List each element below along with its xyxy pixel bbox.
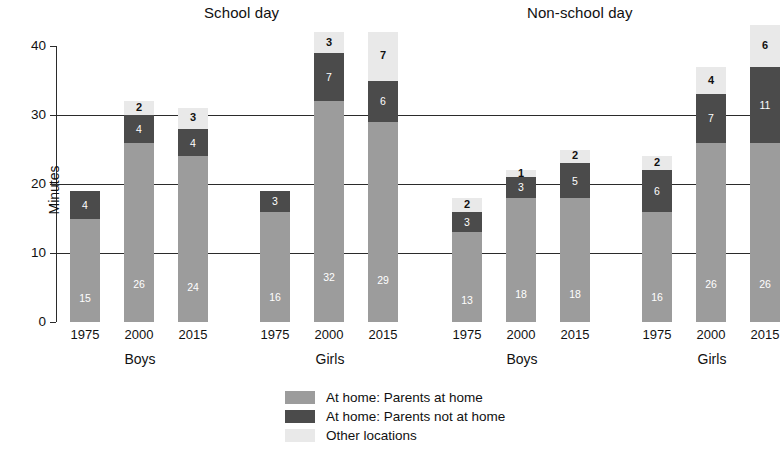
bar-value-label-parents-at-home: 26 [124,279,154,290]
x-tick-label-2000: 2000 [688,327,734,342]
legend-label-parents-not-at-home: At home: Parents not at home [326,409,505,424]
bar-school-day-boys-2000: 2426 [124,101,154,322]
bar-value-label-parents-at-home: 26 [750,279,780,290]
legend-item-parents-at-home: At home: Parents at home [285,388,505,407]
bar-value-label-other-locations: 2 [124,102,154,113]
bar-segment-other-locations: 2 [124,101,154,115]
x-tick-label-2000: 2000 [116,327,162,342]
y-tick-30 [50,115,56,116]
x-group-label-boys: Boys [477,351,567,367]
bar-segment-other-locations: 6 [750,25,780,66]
bar-value-label-parents-at-home: 18 [560,289,590,300]
x-tick-label-1975: 1975 [252,327,298,342]
bar-segment-other-locations: 2 [642,156,672,170]
bar-non-school-day-boys-2015: 2518 [560,150,590,323]
bar-segment-parents-not-at-home: 3 [452,212,482,233]
bar-segment-parents-not-at-home: 11 [750,67,780,143]
x-tick-label-2015: 2015 [360,327,406,342]
bar-value-label-parents-not-at-home: 6 [642,186,672,197]
bar-value-label-parents-at-home: 29 [368,275,398,286]
x-tick-label-1975: 1975 [634,327,680,342]
bar-segment-other-locations: 3 [314,32,344,53]
bar-school-day-boys-1975: 415 [70,191,100,322]
bar-school-day-boys-2015: 3424 [178,108,208,322]
legend-swatch-parents-not-at-home [285,410,315,423]
bar-school-day-girls-2015: 7629 [368,32,398,322]
bar-value-label-parents-not-at-home: 7 [314,72,344,83]
bar-value-label-parents-not-at-home: 4 [178,137,208,148]
bar-non-school-day-boys-1975: 2313 [452,198,482,322]
bar-segment-other-locations: 7 [368,32,398,80]
bar-value-label-parents-not-at-home: 3 [452,217,482,228]
bar-segment-parents-at-home: 32 [314,101,344,322]
gridline-30 [56,115,754,116]
bar-segment-other-locations: 2 [452,198,482,212]
bar-segment-parents-at-home: 13 [452,232,482,322]
bar-non-school-day-boys-2000: 1318 [506,170,536,322]
bar-value-label-parents-at-home: 13 [452,295,482,306]
bar-segment-parents-at-home: 26 [750,143,780,322]
x-tick-label-1975: 1975 [444,327,490,342]
legend-swatch-other-locations [285,429,315,442]
bar-segment-other-locations: 1 [506,170,536,177]
panel-title-non-school-day: Non-school day [527,4,633,21]
bar-non-school-day-girls-2015: 61126 [750,25,780,322]
y-tick-10 [50,253,56,254]
bar-value-label-parents-not-at-home: 11 [750,99,780,110]
bar-value-label-other-locations: 7 [368,50,398,61]
bar-segment-parents-not-at-home: 3 [260,191,290,212]
bar-segment-parents-at-home: 16 [642,212,672,322]
bar-segment-parents-at-home: 15 [70,219,100,323]
bar-value-label-other-locations: 2 [452,199,482,210]
x-group-label-girls: Girls [667,351,757,367]
bar-segment-parents-not-at-home: 4 [70,191,100,219]
bar-segment-parents-not-at-home: 5 [560,163,590,198]
bar-value-label-other-locations: 4 [696,75,726,86]
bar-value-label-parents-at-home: 18 [506,289,536,300]
legend-label-other-locations: Other locations [326,428,417,443]
bar-non-school-day-girls-1975: 2616 [642,156,672,322]
legend-swatch-parents-at-home [285,391,315,404]
bar-segment-parents-not-at-home: 6 [368,81,398,122]
y-tick-label-20: 20 [20,176,46,191]
bar-non-school-day-girls-2000: 4726 [696,67,726,322]
bar-value-label-parents-not-at-home: 6 [368,96,398,107]
x-tick-label-1975: 1975 [62,327,108,342]
y-axis-title: Minutes [46,165,62,214]
bar-value-label-parents-not-at-home: 3 [506,182,536,193]
bar-value-label-parents-at-home: 15 [70,293,100,304]
x-tick-label-2000: 2000 [306,327,352,342]
bar-segment-parents-not-at-home: 3 [506,177,536,198]
chart-legend: At home: Parents at homeAt home: Parents… [285,388,505,445]
x-tick-label-2000: 2000 [498,327,544,342]
bar-value-label-parents-not-at-home: 4 [70,199,100,210]
y-tick-label-0: 0 [20,314,46,329]
bar-value-label-parents-not-at-home: 3 [260,196,290,207]
legend-item-parents-not-at-home: At home: Parents not at home [285,407,505,426]
legend-item-other-locations: Other locations [285,426,505,445]
bar-segment-parents-at-home: 18 [506,198,536,322]
bar-value-label-parents-not-at-home: 7 [696,113,726,124]
x-tick-label-2015: 2015 [742,327,784,342]
bar-value-label-parents-at-home: 32 [314,272,344,283]
bar-segment-parents-at-home: 26 [124,143,154,322]
bar-segment-other-locations: 4 [696,67,726,95]
y-tick-label-40: 40 [20,38,46,53]
bar-segment-other-locations: 3 [178,108,208,129]
y-tick-0 [50,322,56,323]
bar-segment-parents-not-at-home: 7 [696,94,726,142]
bar-segment-parents-not-at-home: 6 [642,170,672,211]
bar-value-label-parents-at-home: 16 [642,292,672,303]
x-group-label-boys: Boys [95,351,185,367]
bar-value-label-other-locations: 3 [178,112,208,123]
bar-value-label-parents-at-home: 24 [178,282,208,293]
plot-area: 010203040 415242634243163732762923131318… [56,40,754,324]
bar-segment-parents-at-home: 24 [178,156,208,322]
bar-value-label-other-locations: 2 [642,157,672,168]
bar-school-day-girls-2000: 3732 [314,32,344,322]
bar-value-label-parents-at-home: 16 [260,292,290,303]
bar-segment-parents-not-at-home: 4 [178,129,208,157]
bar-value-label-other-locations: 2 [560,150,590,161]
panel-title-school-day: School day [204,4,279,21]
bar-value-label-other-locations: 6 [750,40,780,51]
